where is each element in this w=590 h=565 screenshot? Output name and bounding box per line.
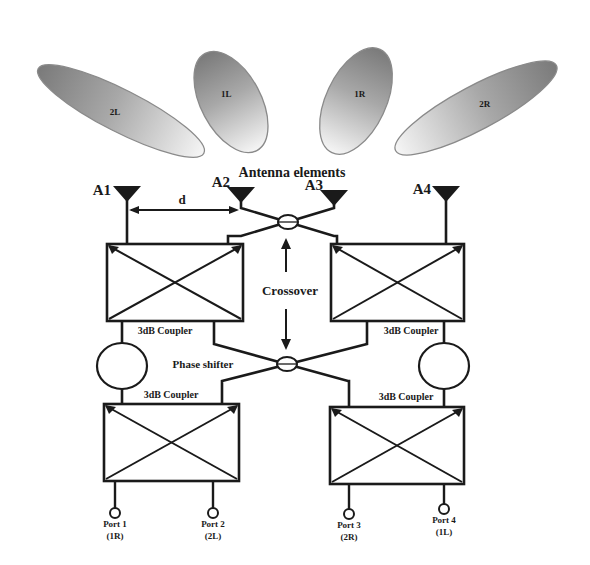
port-1: Port 1 (1R) — [103, 481, 127, 541]
port-2-connector-icon — [208, 508, 218, 518]
antenna-a3-icon — [320, 190, 348, 206]
antenna-a1-icon — [113, 186, 141, 202]
antenna-a4: A4 — [413, 181, 460, 202]
coupler-lower-left: 3dB Coupler — [104, 389, 239, 481]
antenna-a1: A1 — [93, 182, 141, 202]
crossover-label: Crossover — [262, 283, 318, 298]
antenna-a4-label: A4 — [413, 181, 432, 197]
port-4-label: Port 4 — [432, 515, 456, 525]
port-2-beam: (2L) — [205, 531, 222, 541]
port-4-connector-icon — [439, 504, 449, 514]
port-3-beam: (2R) — [341, 532, 358, 542]
butler-matrix-diagram: 2L 1L 1R 2R Antenna elements A1 A2 A3 A4 — [0, 0, 590, 565]
arrow-up-icon — [281, 238, 291, 249]
beam-pattern-group: 2L 1L 1R 2R — [29, 37, 567, 172]
antenna-a4-icon — [432, 186, 460, 202]
arrow-down-icon — [281, 339, 291, 350]
arrow-right-icon — [229, 206, 239, 214]
coupler-upper-left: 3dB Coupler — [107, 244, 243, 336]
phase-shifter-right — [419, 343, 469, 389]
antenna-elements-title: Antenna elements — [239, 165, 346, 180]
port-4: Port 4 (1L) — [432, 484, 456, 537]
antenna-a2-label: A2 — [212, 174, 230, 190]
port-3-connector-icon — [344, 509, 354, 519]
port-4-beam: (1L) — [436, 527, 453, 537]
antenna-a1-label: A1 — [93, 182, 111, 198]
coupler-label: 3dB Coupler — [144, 389, 199, 400]
beam-label-2l: 2L — [110, 107, 121, 117]
antenna-a3-label: A3 — [305, 177, 323, 193]
beam-2r: 2R — [385, 46, 566, 170]
antenna-a3: A3 — [305, 177, 348, 206]
beam-1r: 1R — [305, 37, 408, 166]
arrow-left-icon — [129, 206, 139, 214]
beam-label-1r: 1R — [354, 89, 366, 99]
coupler-label: 3dB Coupler — [379, 391, 434, 402]
coupler-label: 3dB Coupler — [384, 325, 439, 336]
port-3-label: Port 3 — [337, 520, 361, 530]
coupler-label: 3dB Coupler — [138, 325, 193, 336]
port-1-label: Port 1 — [103, 519, 127, 529]
beam-label-1l: 1L — [221, 89, 232, 99]
phase-shifter-left — [97, 343, 147, 389]
port-3: Port 3 (2R) — [337, 484, 361, 542]
port-2-label: Port 2 — [201, 519, 225, 529]
port-1-beam: (1R) — [107, 531, 124, 541]
beam-label-2r: 2R — [479, 99, 491, 109]
port-1-connector-icon — [110, 508, 120, 518]
element-spacing-indicator: d — [129, 192, 239, 214]
port-2: Port 2 (2L) — [201, 481, 225, 541]
spacing-label: d — [178, 192, 186, 207]
crossover-annotation: Crossover — [262, 238, 318, 350]
phase-shifter-label: Phase shifter — [173, 358, 234, 370]
beam-2l: 2L — [29, 50, 214, 172]
antenna-a2-icon — [227, 187, 255, 203]
